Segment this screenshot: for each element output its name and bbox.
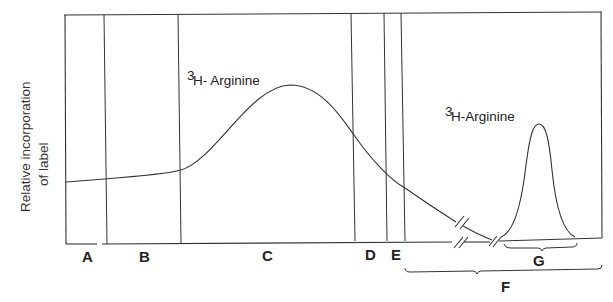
curve-arginine-broad	[66, 85, 456, 222]
region-label-a: A	[82, 248, 93, 265]
region-label-f: F	[501, 278, 510, 295]
chart: Relative incorporation of label 3 H- Arg…	[0, 0, 613, 302]
region-label-g: G	[533, 252, 545, 269]
annotation-broad-peak: 3 H- Arginine	[187, 68, 260, 88]
curve-arginine-sharp	[501, 124, 575, 237]
region-label-b: B	[139, 248, 150, 265]
svg-text:Relative incorporation: Relative incorporation	[18, 81, 33, 212]
svg-text:H- Arginine: H- Arginine	[193, 73, 260, 88]
plot-frame	[64, 12, 602, 244]
svg-text:of label: of label	[36, 142, 51, 186]
brace-g	[504, 243, 577, 251]
brace-f	[405, 265, 602, 274]
annotation-sharp-peak: 3 H-Arginine	[445, 104, 515, 124]
axis-break-icon	[454, 216, 501, 248]
y-axis-label: Relative incorporation of label	[18, 81, 51, 212]
region-label-e: E	[391, 246, 401, 263]
region-dividers	[104, 13, 405, 244]
region-label-d: D	[365, 246, 376, 263]
svg-text:H-Arginine: H-Arginine	[451, 109, 515, 124]
region-label-c: C	[262, 247, 273, 264]
